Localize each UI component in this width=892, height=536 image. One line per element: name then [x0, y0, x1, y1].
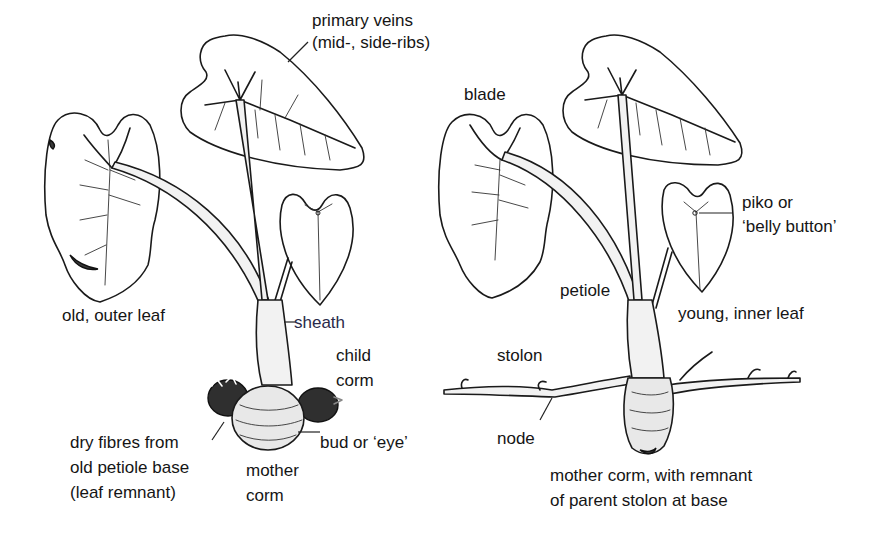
right-mother-corm — [624, 378, 673, 454]
label-young-inner-leaf: young, inner leaf — [678, 303, 804, 324]
label-blade: blade — [464, 84, 506, 105]
stolon-left — [444, 376, 630, 397]
label-right-mother-corm-line2: of parent stolon at base — [550, 490, 728, 511]
label-node: node — [497, 428, 535, 449]
label-bud-or-eye: bud or ‘eye’ — [320, 432, 408, 453]
label-stolon: stolon — [497, 345, 542, 366]
label-primary-veins-line2: (mid-, side-ribs) — [312, 32, 430, 53]
right-blade — [439, 114, 553, 298]
old-outer-leaf-blade — [45, 113, 160, 302]
label-piko-line2: ‘belly button’ — [742, 216, 837, 237]
left-main-stalk — [256, 300, 292, 385]
primary-leaf-blade — [181, 35, 364, 170]
label-petiole: petiole — [560, 280, 610, 301]
taro-diagram-illustration — [0, 0, 892, 536]
label-child-corm-line1: child — [336, 345, 371, 366]
label-mother-corm-line1: mother — [246, 460, 299, 481]
left-plant — [45, 35, 364, 450]
label-dry-fibres-line1: dry fibres from — [70, 432, 179, 453]
label-old-outer-leaf: old, outer leaf — [62, 305, 165, 326]
stolon-right — [668, 378, 800, 394]
right-main-stalk — [627, 300, 664, 378]
label-right-mother-corm-line1: mother corm, with remnant — [550, 465, 752, 486]
label-child-corm-line2: corm — [336, 370, 374, 391]
label-dry-fibres-line2: old petiole base — [70, 457, 189, 478]
label-primary-veins-line1: primary veins — [312, 10, 413, 31]
label-sheath: sheath — [294, 312, 345, 333]
label-piko-line1: piko or — [742, 192, 793, 213]
label-dry-fibres-line3: (leaf remnant) — [70, 482, 176, 503]
label-mother-corm-line2: corm — [246, 485, 284, 506]
